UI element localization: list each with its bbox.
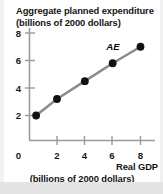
ae-data-point [109,59,117,67]
x-axis-tick-labels: 2 4 6 8 [54,150,144,161]
x-tick-label-6: 6 [109,150,114,161]
page-edge-bottom [0,182,163,194]
x-tick-label-8: 8 [138,150,144,161]
x-tick-label-4: 4 [82,150,88,161]
y-axis-tick-labels: 8 6 4 2 [16,28,22,122]
x-axis-title-line1: Real GDP [116,161,158,172]
ae-series-label: AE [105,41,120,52]
y-tick-label-8: 8 [16,28,22,39]
ae-data-point [53,95,61,103]
y-tick-label-6: 6 [16,55,21,66]
x-axis-title: Real GDP (billions of 2000 dollars) [6,161,158,184]
ae-data-point [81,77,89,85]
figure-container: Aggregate planned expenditure (billions … [0,0,163,194]
ae-data-point [32,112,40,120]
origin-label: 0 [16,150,21,161]
x-tick-label-2: 2 [54,150,59,161]
ae-data-point [137,43,145,51]
y-tick-label-4: 4 [16,83,22,94]
y-tick-label-2: 2 [16,110,21,121]
